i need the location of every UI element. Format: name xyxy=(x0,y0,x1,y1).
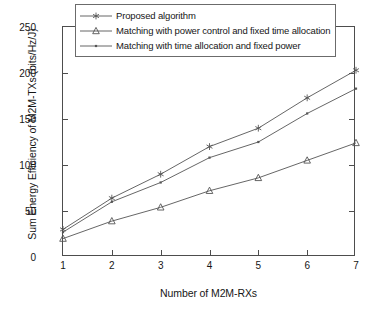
series-layer xyxy=(63,27,356,257)
y-tick-label: 100 xyxy=(0,160,36,171)
x-tick-label: 2 xyxy=(97,260,127,271)
legend: Proposed algorithmMatching with power co… xyxy=(75,4,336,57)
triangle-marker xyxy=(353,139,360,145)
series-line-2 xyxy=(63,89,356,233)
y-tick-label: 50 xyxy=(0,206,36,217)
x-tick-label: 3 xyxy=(146,260,176,271)
legend-label: Proposed algorithm xyxy=(116,10,196,21)
asterisk-marker xyxy=(158,171,164,178)
asterisk-marker xyxy=(207,143,213,150)
dot-marker xyxy=(208,157,210,159)
dot-marker xyxy=(306,112,308,114)
chart-figure: Sum Energy Efficiency of M2M-TXs (bits/H… xyxy=(0,0,376,312)
y-axis-label: Sum Energy Efficiency of M2M-TXs (bits/H… xyxy=(26,14,38,254)
dot-marker xyxy=(257,141,259,143)
y-tick-label: 250 xyxy=(0,22,36,33)
dot-marker xyxy=(62,231,64,233)
dot-marker xyxy=(355,88,357,90)
x-tick-label: 4 xyxy=(195,260,225,271)
x-tick-label: 5 xyxy=(243,260,273,271)
y-tick-label: 150 xyxy=(0,114,36,125)
x-axis-label: Number of M2M-RXs xyxy=(62,287,355,299)
asterisk-marker xyxy=(304,94,310,101)
legend-sample-asterisk xyxy=(79,9,113,23)
y-tick-label: 200 xyxy=(0,68,36,79)
legend-item-1: Matching with power control and fixed ti… xyxy=(79,23,330,38)
x-tick-label: 1 xyxy=(48,260,78,271)
legend-item-2: Matching with time allocation and fixed … xyxy=(79,38,330,53)
legend-sample-dot xyxy=(79,39,113,53)
legend-sample-triangle xyxy=(79,24,113,38)
dot-marker xyxy=(111,201,113,203)
x-tick-label: 6 xyxy=(292,260,322,271)
legend-label: Matching with power control and fixed ti… xyxy=(116,25,330,36)
asterisk-marker xyxy=(255,125,261,132)
asterisk-marker xyxy=(109,195,115,202)
dot-marker xyxy=(95,44,97,46)
asterisk-marker xyxy=(353,67,359,74)
plot-area: 0501001502002501234567 xyxy=(62,26,355,256)
triangle-marker xyxy=(93,27,100,33)
legend-item-0: Proposed algorithm xyxy=(79,8,330,23)
legend-label: Matching with time allocation and fixed … xyxy=(116,40,300,51)
x-tick-label: 7 xyxy=(341,260,371,271)
dot-marker xyxy=(160,181,162,183)
y-tick-label: 0 xyxy=(0,252,36,263)
